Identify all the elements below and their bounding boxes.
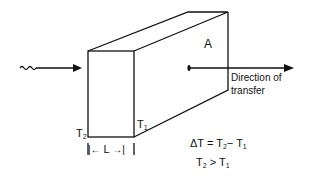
length-left-arrow: |← [88, 144, 101, 155]
length-dimension: |← L →| [88, 144, 125, 155]
t2-base: T [76, 127, 83, 139]
direction-origin-dot-icon [187, 65, 190, 71]
slab-front-face [88, 51, 134, 137]
area-label: A [204, 38, 212, 50]
temperature-inequality: T2 > T1 [196, 157, 230, 169]
slab-right-face [134, 12, 228, 137]
incoming-heat-wave-icon [20, 67, 36, 70]
length-right-arrow: →| [112, 144, 125, 155]
t2-sub: 2 [83, 133, 87, 140]
direction-label-line2: transfer [231, 86, 265, 96]
t2-label: T2 [76, 128, 87, 140]
t1-label: T1 [137, 119, 148, 131]
delta-eq-sub2: 1 [243, 143, 247, 150]
length-label: L [103, 143, 109, 155]
t1-base: T [137, 118, 144, 130]
t1-sub: 1 [144, 124, 148, 131]
ineq-sub2: 1 [226, 162, 230, 169]
ineq-mid: > T [207, 156, 226, 168]
delta-t-equation: ΔT = T2− T1 [190, 138, 247, 150]
ineq-base1: T [196, 156, 203, 168]
delta-eq-prefix: ΔT = T [190, 137, 223, 149]
incoming-arrowhead-icon [73, 64, 82, 72]
delta-eq-mid: − T [227, 137, 243, 149]
direction-label-line1: Direction of [231, 73, 282, 83]
direction-arrowhead-icon [284, 64, 294, 72]
